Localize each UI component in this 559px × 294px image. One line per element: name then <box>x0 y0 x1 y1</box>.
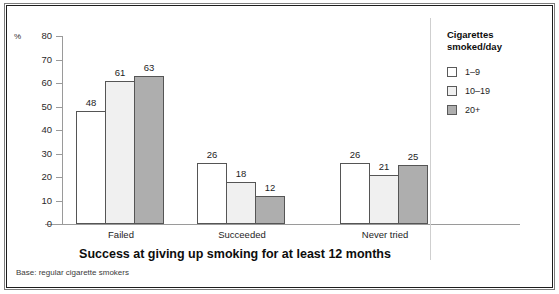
legend-item-label: 20+ <box>465 106 480 115</box>
legend-item-label: 10–19 <box>465 87 490 96</box>
bar-value-label: 61 <box>105 68 135 78</box>
bar-failed-series-2[interactable] <box>105 81 135 224</box>
bar-value-label: 26 <box>340 150 370 160</box>
legend-item-1[interactable]: 1–9 <box>447 63 537 82</box>
legend-swatch-icon <box>447 86 457 96</box>
x-axis-label-failed: Failed <box>56 230 186 240</box>
legend-item-list: 1–910–1920+ <box>447 63 537 120</box>
legend-item-3[interactable]: 20+ <box>447 101 537 120</box>
bar-value-label: 63 <box>134 63 164 73</box>
x-axis-line <box>45 224 520 225</box>
chart-title: Success at giving up smoking for at leas… <box>45 248 425 262</box>
bar-succeeded-series-1[interactable] <box>197 163 227 224</box>
legend-title: Cigarettes smoked/day <box>447 29 537 53</box>
bar-value-label: 18 <box>226 169 256 179</box>
bar-value-label: 21 <box>369 162 399 172</box>
bar-failed-series-3[interactable] <box>134 76 164 224</box>
bar-succeeded-series-3[interactable] <box>255 196 285 224</box>
chart-legend: Cigarettes smoked/day 1–910–1920+ <box>447 29 537 120</box>
bar-succeeded-series-2[interactable] <box>226 182 256 224</box>
x-axis-label-succeeded: Succeeded <box>177 230 307 240</box>
bar-never-tried-series-2[interactable] <box>369 175 399 224</box>
y-axis-tick <box>56 224 63 225</box>
base-note: Base: regular cigarette smokers <box>16 269 129 277</box>
bar-never-tried-series-3[interactable] <box>398 165 428 224</box>
legend-swatch-icon <box>447 67 457 77</box>
bar-failed-series-1[interactable] <box>76 111 106 224</box>
legend-item-2[interactable]: 10–19 <box>447 82 537 101</box>
legend-divider <box>430 18 431 260</box>
plot-area: % 01020304050607080 486163261812262125 F… <box>0 0 559 294</box>
bar-value-label: 48 <box>76 98 106 108</box>
bar-value-label: 26 <box>197 150 227 160</box>
legend-item-label: 1–9 <box>465 68 480 77</box>
bar-never-tried-series-1[interactable] <box>340 163 370 224</box>
chart-figure: % 01020304050607080 486163261812262125 F… <box>0 0 559 294</box>
bar-value-label: 12 <box>255 183 285 193</box>
legend-swatch-icon <box>447 105 457 115</box>
bar-value-label: 25 <box>398 152 428 162</box>
